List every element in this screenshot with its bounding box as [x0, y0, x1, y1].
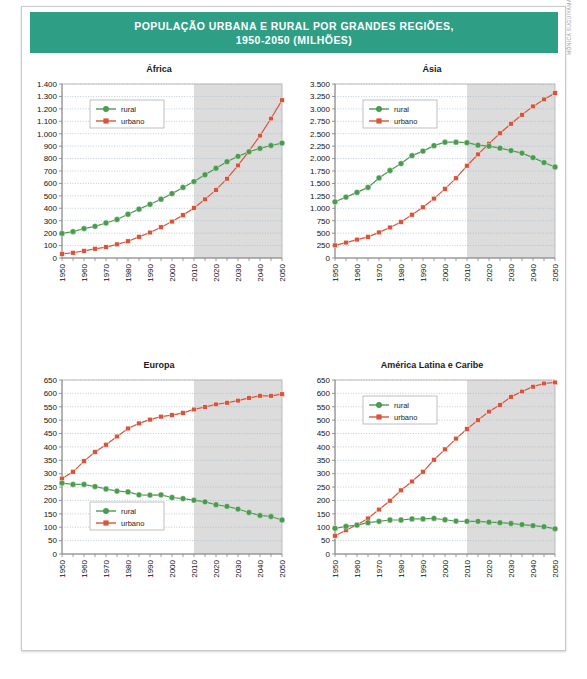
- data-point-urbano: [454, 176, 459, 181]
- data-point-urbano: [542, 381, 547, 386]
- y-tick-label: 0: [326, 254, 331, 263]
- legend-label-urbano: urbano: [121, 117, 144, 126]
- data-point-rural: [169, 191, 175, 197]
- data-point-rural: [235, 153, 241, 159]
- data-point-rural: [420, 148, 426, 154]
- data-point-urbano: [71, 470, 76, 475]
- y-tick-label: 600: [44, 179, 58, 188]
- y-tick-label: 1.200: [37, 105, 58, 114]
- data-point-rural: [464, 140, 470, 146]
- data-point-urbano: [170, 413, 175, 418]
- y-tick-label: 0: [326, 550, 331, 559]
- data-point-urbano: [465, 163, 470, 168]
- x-tick-label: 1990: [419, 263, 428, 281]
- data-point-urbano: [476, 152, 481, 157]
- data-point-urbano: [93, 450, 98, 455]
- x-tick-label: 2010: [463, 559, 472, 577]
- data-point-rural: [279, 517, 285, 523]
- data-point-urbano: [214, 402, 219, 407]
- y-tick-label: 1.000: [37, 130, 58, 139]
- data-point-urbano: [148, 417, 153, 422]
- y-tick-label: 250: [317, 483, 331, 492]
- chart-legend: ruralurbano: [90, 502, 164, 530]
- data-point-rural: [114, 217, 120, 223]
- projection-shade-region: [194, 84, 282, 258]
- x-tick-label: 2050: [551, 559, 560, 577]
- y-tick-label: 300: [44, 217, 58, 226]
- data-point-rural: [257, 513, 263, 519]
- y-tick-label: 2.000: [310, 154, 331, 163]
- data-point-rural: [354, 522, 360, 528]
- y-tick-label: 600: [44, 389, 58, 398]
- data-point-urbano: [421, 205, 426, 210]
- x-tick-label: 2020: [212, 263, 221, 281]
- data-point-rural: [442, 517, 448, 523]
- data-point-urbano: [181, 213, 186, 218]
- data-point-rural: [552, 526, 558, 532]
- data-point-urbano: [553, 380, 558, 385]
- legend-marker-urbano: [376, 414, 381, 419]
- data-point-rural: [147, 492, 153, 498]
- data-point-urbano: [333, 243, 338, 248]
- x-tick-label: 1990: [146, 559, 155, 577]
- y-tick-label: 3.000: [310, 105, 331, 114]
- x-tick-label: 2040: [256, 559, 265, 577]
- data-point-urbano: [269, 393, 274, 398]
- data-point-urbano: [82, 249, 87, 254]
- data-point-rural: [475, 142, 481, 148]
- y-tick-label: 100: [317, 523, 331, 532]
- y-tick-label: 200: [317, 496, 331, 505]
- legend-marker-urbano: [376, 118, 381, 123]
- data-point-urbano: [366, 235, 371, 240]
- data-point-urbano: [236, 398, 241, 403]
- data-point-urbano: [148, 230, 153, 235]
- legend-label-urbano: urbano: [121, 519, 144, 528]
- legend-label-urbano: urbano: [394, 413, 417, 422]
- data-point-urbano: [432, 457, 437, 462]
- y-tick-label: 1.750: [310, 167, 331, 176]
- data-point-rural: [387, 168, 393, 174]
- data-point-rural: [332, 199, 338, 205]
- x-tick-label: 2030: [234, 263, 243, 281]
- data-point-urbano: [71, 250, 76, 255]
- x-tick-label: 1990: [146, 263, 155, 281]
- y-tick-label: 50: [321, 536, 330, 545]
- y-tick-label: 2.500: [310, 130, 331, 139]
- data-point-rural: [376, 518, 382, 524]
- data-point-urbano: [104, 442, 109, 447]
- data-point-rural: [420, 516, 426, 522]
- chart-panel-america-latina-e-caribe: América Latina e Caribe 0501001502002503…: [303, 358, 561, 608]
- y-tick-label: 100: [44, 241, 58, 250]
- data-point-rural: [202, 499, 208, 505]
- data-point-urbano: [225, 176, 230, 181]
- x-tick-label: 2020: [485, 559, 494, 577]
- y-tick-label: 1.400: [37, 80, 58, 89]
- data-point-urbano: [225, 400, 230, 405]
- chart-panel-africa: África 01002003004005006007008009001.000…: [30, 62, 288, 302]
- data-point-urbano: [181, 411, 186, 416]
- x-tick-label: 1990: [419, 559, 428, 577]
- x-tick-label: 2010: [190, 263, 199, 281]
- data-point-rural: [376, 175, 382, 181]
- y-tick-label: 3.500: [310, 80, 331, 89]
- figure-title-band: POPULAÇÃO URBANA E RURAL POR GRANDES REG…: [30, 12, 558, 53]
- data-point-rural: [125, 211, 131, 217]
- data-point-urbano: [509, 395, 514, 400]
- data-point-rural: [180, 185, 186, 191]
- data-point-urbano: [498, 131, 503, 136]
- data-point-urbano: [170, 219, 175, 224]
- data-point-urbano: [126, 239, 131, 244]
- y-tick-label: 650: [44, 376, 58, 385]
- data-point-rural: [453, 518, 459, 524]
- x-tick-label: 1950: [331, 559, 340, 577]
- x-tick-label: 2050: [278, 559, 287, 577]
- data-point-urbano: [542, 97, 547, 102]
- data-point-urbano: [60, 252, 65, 257]
- x-tick-label: 1980: [397, 559, 406, 577]
- y-tick-label: 1.000: [310, 204, 331, 213]
- data-point-urbano: [258, 133, 263, 138]
- data-point-rural: [81, 482, 87, 488]
- legend-marker-rural: [103, 508, 109, 514]
- data-point-urbano: [82, 459, 87, 464]
- y-tick-label: 550: [317, 403, 331, 412]
